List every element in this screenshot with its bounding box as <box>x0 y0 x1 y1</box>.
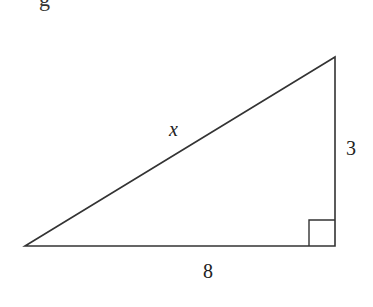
hypotenuse-label: x <box>169 119 178 139</box>
right-angle-marker <box>309 220 335 246</box>
right-triangle-diagram <box>0 0 373 307</box>
vertical-leg-label: 3 <box>346 138 356 158</box>
horizontal-leg-label: 8 <box>203 261 213 281</box>
triangle-shape <box>25 57 335 246</box>
